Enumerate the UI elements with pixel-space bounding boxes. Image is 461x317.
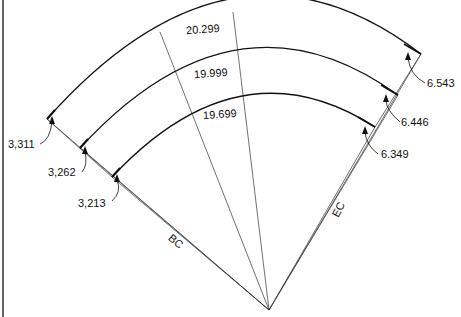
outer-arc-length-label: 20.299: [186, 23, 220, 36]
diagram-canvas: 20.299 19.999 19.699 3,311 3,262 3,213 6…: [0, 0, 461, 317]
leader-3213: [112, 180, 119, 201]
outer-ec-offset-label: 6.543: [427, 78, 455, 89]
inner-bc-offset-label: 3,213: [78, 198, 106, 209]
leader-3262: [82, 152, 86, 172]
inner-arc: [112, 93, 375, 177]
bc-line-inner: [112, 177, 269, 310]
leader-3311: [40, 122, 52, 144]
inner-arc-length-label: 19.699: [203, 108, 237, 121]
ec-line-inner: [269, 127, 375, 310]
middle-bc-offset-label: 3,262: [48, 167, 76, 178]
inner-ec-offset-label: 6.349: [381, 149, 409, 160]
middle-ec-offset-label: 6.446: [401, 117, 429, 128]
leader-6349: [365, 132, 378, 154]
center-radial-right: [233, 12, 269, 310]
middle-arc-length-label: 19.999: [194, 67, 228, 80]
outer-bc-offset-label: 3,311: [8, 139, 35, 150]
radial-lines: [47, 12, 421, 310]
ec-ticks: [358, 44, 421, 127]
